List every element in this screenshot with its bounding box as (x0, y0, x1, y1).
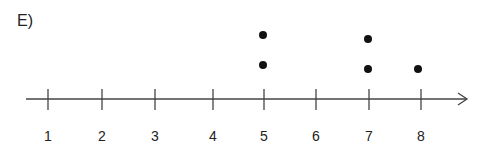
tick-label: 3 (151, 128, 159, 144)
data-dot (414, 65, 422, 73)
tick-label: 1 (44, 128, 52, 144)
tick-labels: 12345678 (44, 128, 425, 144)
tick-label: 5 (260, 128, 268, 144)
tick-label: 4 (209, 128, 217, 144)
number-line-axis (26, 93, 467, 105)
tick-label: 8 (417, 128, 425, 144)
tick-label: 2 (98, 128, 106, 144)
tick-label: 6 (312, 128, 320, 144)
data-dot (364, 65, 372, 73)
dot-plot: 12345678 (0, 0, 483, 150)
tick-label: 7 (365, 128, 373, 144)
data-dot (259, 31, 267, 39)
data-dots (259, 31, 422, 73)
data-dot (259, 61, 267, 69)
data-dot (364, 35, 372, 43)
